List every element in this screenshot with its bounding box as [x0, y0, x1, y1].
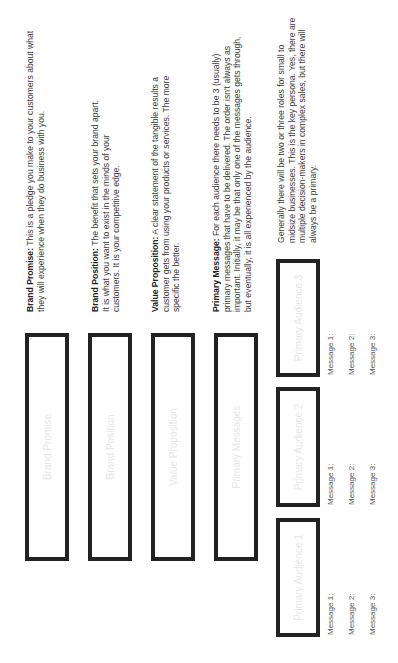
- audience-2-message-3-label: Message 3:: [368, 464, 377, 505]
- primary-audience-2-box: Primary Audience 2: [276, 387, 320, 507]
- audience-3-message-3-label: Message 3:: [368, 334, 377, 375]
- box-placeholder-label: Primary Messages: [231, 406, 242, 489]
- term-label: Brand Promise:: [25, 248, 35, 312]
- brand-messaging-worksheet: Brand Promise Brand Position Value Propo…: [0, 0, 398, 663]
- audience-1-message-3-label: Message 3:: [368, 594, 377, 635]
- term-label: Brand Position:: [90, 248, 100, 312]
- brand-position-description: Brand Position: The benefit that sets yo…: [90, 100, 122, 312]
- document-viewport: Brand Promise Brand Position Value Propo…: [0, 0, 398, 663]
- term-label: Value Proposition:: [150, 237, 160, 312]
- term-label: Primary Message:: [211, 238, 221, 312]
- box-placeholder-label: Primary Audience 1: [293, 534, 304, 621]
- brand-promise-description: Brand Promise: This is a pledge you make…: [25, 16, 46, 312]
- primary-message-description: Primary Message: For each audience there…: [211, 26, 253, 312]
- value-proposition-description: Value Proposition: A clear statement of …: [150, 64, 182, 312]
- box-placeholder-label: Brand Promise: [42, 414, 53, 480]
- value-proposition-box: Value Proposition: [151, 333, 195, 561]
- brand-promise-box: Brand Promise: [25, 333, 69, 561]
- brand-position-box: Brand Position: [88, 333, 132, 561]
- box-placeholder-label: Value Proposition: [168, 408, 179, 486]
- audience-2-message-2-label: Message 2:: [347, 464, 356, 505]
- audience-1-message-2-label: Message 2:: [347, 594, 356, 635]
- box-placeholder-label: Primary Audience 3: [293, 275, 304, 362]
- primary-audience-1-box: Primary Audience 1: [276, 518, 320, 637]
- audience-3-message-2-label: Message 2:: [347, 334, 356, 375]
- box-placeholder-label: Primary Audience 2: [293, 404, 304, 491]
- audience-3-message-1-label: Message 1:: [326, 334, 335, 375]
- primary-messages-box: Primary Messages: [214, 333, 258, 561]
- primary-audience-3-box: Primary Audience 3: [276, 259, 320, 377]
- box-placeholder-label: Brand Position: [105, 414, 116, 479]
- audience-2-message-1-label: Message 1:: [326, 464, 335, 505]
- audience-note: Generally there will be two or three rol…: [276, 15, 318, 243]
- audience-1-message-1-label: Message 1:: [326, 594, 335, 635]
